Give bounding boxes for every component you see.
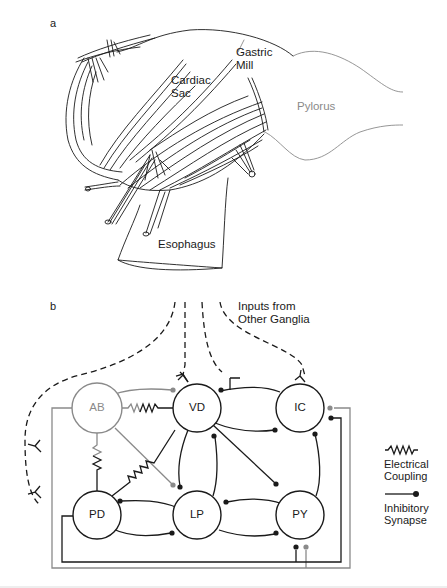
neuron-pd-label: PD bbox=[77, 508, 117, 521]
neuron-lp-label: LP bbox=[177, 508, 217, 521]
synapse-dot bbox=[177, 484, 182, 489]
synapse-dot bbox=[273, 481, 278, 486]
synapse-dot bbox=[293, 544, 298, 549]
inputs-label-line1: Inputs from bbox=[238, 300, 310, 313]
gastric-mill-label: Gastric Mill bbox=[236, 46, 272, 72]
inputs-label-line2: Other Ganglia bbox=[238, 313, 310, 326]
synapse-dot bbox=[273, 530, 278, 535]
synapse-dot bbox=[170, 387, 175, 392]
legend-electrical-line1: Electrical bbox=[384, 458, 429, 470]
synapse-dot bbox=[272, 427, 277, 432]
neuron-py-label: PY bbox=[280, 508, 320, 521]
ganglia-input-lines bbox=[25, 302, 305, 505]
legend-inhibitory-line1: Inhibitory bbox=[384, 502, 429, 514]
legend-electrical-label: Electrical Coupling bbox=[384, 458, 429, 483]
pd-pathways bbox=[62, 418, 341, 562]
legend-inhibitory-line2: Synapse bbox=[384, 514, 429, 526]
synapse-dot bbox=[169, 530, 174, 535]
legend-electrical-line2: Coupling bbox=[384, 470, 429, 482]
pylorus-label: Pylorus bbox=[297, 100, 335, 113]
synapse-dot bbox=[327, 405, 332, 410]
neuron-vd-label: VD bbox=[177, 401, 217, 414]
synapse-dot bbox=[223, 499, 228, 504]
gastric-mill-label-line2: Mill bbox=[236, 59, 272, 72]
cardiac-sac-label: Cardiac Sac bbox=[171, 74, 211, 100]
synapse-dot bbox=[211, 433, 216, 438]
figure-canvas bbox=[0, 0, 447, 588]
gastric-mill-label-line1: Gastric bbox=[236, 46, 272, 59]
synapse-dot bbox=[303, 544, 308, 549]
cardiac-sac-label-line1: Cardiac bbox=[171, 74, 211, 87]
esophagus-label: Esophagus bbox=[158, 238, 216, 251]
inputs-label: Inputs from Other Ganglia bbox=[238, 300, 310, 326]
neuron-ic-label: IC bbox=[280, 401, 320, 414]
panel-a-label: a bbox=[50, 17, 56, 29]
legend-inhibitory-label: Inhibitory Synapse bbox=[384, 502, 429, 527]
cardiac-sac-label-line2: Sac bbox=[171, 87, 211, 100]
synapse-dot bbox=[218, 387, 223, 392]
synapse-dot bbox=[170, 482, 175, 487]
synapse-legend-dot bbox=[413, 491, 419, 497]
panel-b-label: b bbox=[50, 300, 56, 312]
synapse-dot bbox=[312, 431, 317, 436]
neuron-ab-label: AB bbox=[77, 401, 117, 414]
synapse-dot bbox=[328, 415, 333, 420]
resistor-legend-icon bbox=[385, 446, 418, 454]
